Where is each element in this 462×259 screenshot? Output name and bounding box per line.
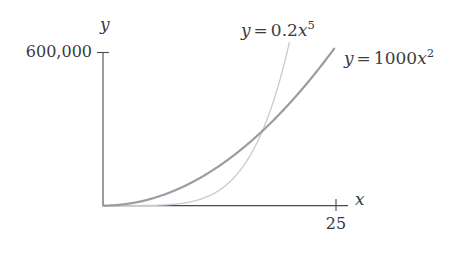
x-axis-title: x bbox=[355, 191, 365, 208]
curve-quadratic bbox=[103, 49, 334, 206]
series-label-quintic: y=0.2x5 bbox=[241, 22, 315, 39]
chart-figure: 600,000 25 y x y=0.2x5 y=1000x2 bbox=[0, 0, 462, 259]
series-label-quadratic-coefficient: 1000 bbox=[374, 48, 417, 68]
y-axis-title: y bbox=[100, 16, 110, 33]
series-label-quadratic: y=1000x2 bbox=[344, 50, 434, 67]
series-label-quadratic-op: = bbox=[354, 48, 374, 68]
y-axis-tick-label: 600,000 bbox=[18, 44, 92, 60]
series-label-quintic-op: = bbox=[251, 20, 271, 40]
series-group bbox=[103, 42, 334, 205]
series-label-quintic-exponent: 5 bbox=[308, 18, 315, 32]
series-label-quintic-variable: x bbox=[298, 20, 308, 40]
series-label-quadratic-variable: x bbox=[417, 48, 427, 68]
plot-area bbox=[0, 0, 462, 259]
series-label-quadratic-lhs: y bbox=[344, 48, 354, 68]
series-label-quintic-lhs: y bbox=[241, 20, 251, 40]
series-label-quintic-coefficient: 0.2 bbox=[271, 20, 298, 40]
x-axis-tick-label: 25 bbox=[310, 216, 362, 232]
series-label-quadratic-exponent: 2 bbox=[427, 46, 434, 60]
